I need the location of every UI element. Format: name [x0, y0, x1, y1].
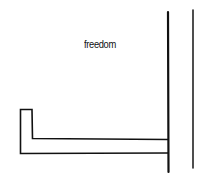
thick-vertical-line	[168, 12, 169, 172]
freedom-label: freedom	[84, 38, 116, 50]
l-shaped-bar	[21, 110, 169, 154]
sketch-canvas	[0, 0, 213, 185]
